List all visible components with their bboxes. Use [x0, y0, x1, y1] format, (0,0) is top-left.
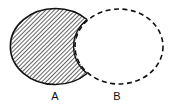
set-b-label: B — [113, 91, 120, 102]
venn-diagram — [0, 0, 170, 107]
set-a-label: A — [51, 91, 58, 102]
set-b-boundary — [75, 9, 163, 84]
